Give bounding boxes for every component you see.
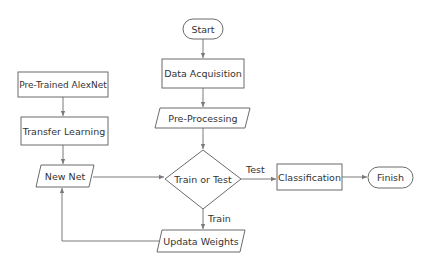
node-pre-processing: Pre-Processing [155, 108, 250, 128]
node-transfer-learning-label: Transfer Learning [22, 126, 105, 137]
node-transfer-learning: Transfer Learning [21, 117, 108, 145]
edge-label-train: Train [207, 213, 231, 224]
node-finish-label: Finish [377, 172, 404, 183]
flowchart-canvas: Test Train Start Data Acquisition Pre-Pr… [0, 0, 430, 269]
node-pretrained-alexnet: Pre-Trained AlexNet [18, 72, 108, 97]
node-data-acquisition: Data Acquisition [162, 59, 244, 88]
node-new-net: New Net [36, 165, 94, 187]
node-classification-label: Classification [278, 172, 341, 183]
node-train-or-test-label: Train or Test [173, 174, 232, 185]
node-update-weights: Updata Weights [157, 230, 245, 252]
edge-update-weights-to-new-net [62, 188, 159, 241]
edge-label-test: Test [245, 164, 265, 175]
node-pretrained-alexnet-label: Pre-Trained AlexNet [19, 80, 107, 90]
node-train-or-test: Train or Test [165, 150, 241, 209]
node-finish: Finish [368, 167, 413, 188]
node-start: Start [183, 19, 223, 39]
node-pre-processing-label: Pre-Processing [168, 113, 237, 124]
node-data-acquisition-label: Data Acquisition [164, 68, 242, 79]
node-new-net-label: New Net [45, 171, 86, 182]
node-classification: Classification [277, 164, 342, 190]
node-update-weights-label: Updata Weights [163, 236, 238, 247]
node-start-label: Start [191, 24, 214, 35]
